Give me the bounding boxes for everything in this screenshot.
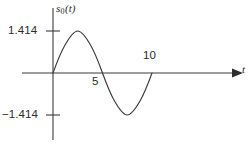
y-tick-label-negative: −1.414	[2, 109, 38, 121]
x-axis-label: t	[242, 64, 245, 75]
x-tick-label-5: 5	[92, 76, 98, 88]
x-tick-label-10: 10	[143, 50, 156, 62]
y-axis-label-subscript: 0	[60, 7, 64, 16]
figure-sine-wave-plot: 1.414 −1.414 5 10 s0(t) t	[0, 0, 251, 148]
y-axis-label-argument: (t)	[65, 2, 76, 14]
y-axis-label: s0(t)	[56, 3, 75, 16]
y-tick-label-positive: 1.414	[8, 25, 37, 37]
plot-canvas	[0, 0, 251, 148]
